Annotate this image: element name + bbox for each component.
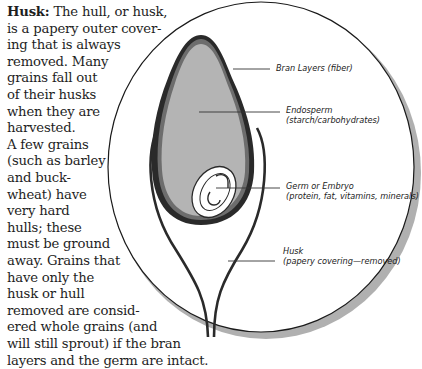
label-husk: Husk (papery covering—removed): [283, 247, 401, 266]
text-line-16: have only the: [7, 270, 94, 287]
text-line-19: ered whole grains (and: [7, 319, 157, 336]
text-line-20: will still sprout) if the bran: [7, 336, 181, 353]
label-husk-subtitle: (papery covering—removed): [283, 257, 401, 267]
text-line-9: (such as barley: [7, 153, 105, 170]
text-line-15: away. Grains that: [7, 253, 120, 270]
text-line-4: grains fall out: [7, 70, 97, 87]
text-line-5: of their husks: [7, 87, 96, 104]
label-germ-subtitle: (protein, fat, vitamins, minerals): [286, 192, 419, 202]
text-line-0: Husk: The hull, or husk,: [7, 4, 167, 21]
text-line-3: removed. Many: [7, 54, 108, 71]
text-line-14: must be ground: [7, 236, 110, 253]
label-germ: Germ or Embryo (protein, fat, vitamins, …: [286, 182, 419, 201]
text-line-12: very hard: [7, 203, 70, 220]
label-endosperm-subtitle: (starch/carbohydrates): [286, 116, 380, 126]
text-line-7: harvested.: [7, 120, 75, 137]
label-bran: Bran Layers (fiber): [276, 64, 353, 74]
text-line-8: A few grains: [7, 137, 89, 154]
text-line-1: is a papery outer cover-: [7, 21, 161, 38]
text-line-0-content: The hull, or husk,: [49, 4, 167, 19]
label-endosperm: Endosperm (starch/carbohydrates): [286, 106, 380, 125]
text-line-21: layers and the germ are intact.: [7, 353, 208, 369]
text-heading: Husk:: [7, 4, 49, 19]
text-line-2: ing that is always: [7, 37, 121, 54]
text-line-18: removed are consid-: [7, 303, 140, 320]
text-line-13: hulls; these: [7, 220, 82, 237]
label-bran-title: Bran Layers (fiber): [276, 64, 353, 74]
text-line-17: husk or hull: [7, 286, 84, 303]
text-line-11: wheat) have: [7, 187, 87, 204]
text-line-10: and buck-: [7, 170, 71, 187]
text-line-6: when they are: [7, 104, 100, 121]
